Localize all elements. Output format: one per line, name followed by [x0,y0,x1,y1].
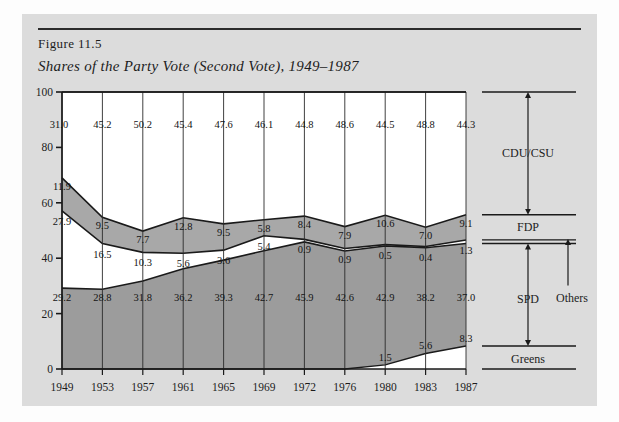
value-label-spd-1961: 36.2 [174,292,192,303]
xtick-label-1976: 1976 [333,381,356,393]
value-label-others-1980: 0.5 [379,250,392,261]
value-label-cdu-csu-1987: 44.3 [457,119,475,130]
value-label-spd-1953: 28.8 [93,292,111,303]
value-label-fdp-1949: 11.9 [53,181,71,192]
legend-label-cdu: CDU/CSU [502,146,554,160]
chart-area: 0204060801001949195319571961196519691972… [22,14,597,406]
value-label-spd-1969: 42.7 [255,292,273,303]
value-label-others-1957: 10.3 [134,257,152,268]
value-label-fdp-1972: 8.4 [298,219,312,230]
value-label-cdu-csu-1953: 45.2 [93,119,111,130]
figure-page: Figure 11.5 Shares of the Party Vote (Se… [0,0,619,422]
value-label-others-1972: 0.9 [298,244,311,255]
value-label-fdp-1980: 10.6 [376,218,394,229]
value-label-greens-1987: 8.3 [459,333,472,344]
legend-label-spd: SPD [517,292,539,306]
value-label-others-1987: 1.3 [459,245,472,256]
xtick-label-1983: 1983 [414,381,437,393]
value-label-cdu-csu-1949: 31.0 [50,119,68,130]
value-label-cdu-csu-1957: 50.2 [134,119,152,130]
legend-label-others: Others [556,291,588,305]
xtick-label-1957: 1957 [131,381,154,393]
xtick-label-1965: 1965 [212,381,235,393]
value-label-cdu-csu-1983: 48.8 [416,119,434,130]
ytick-label-80: 80 [42,141,54,153]
stacked-area-chart: 0204060801001949195319571961196519691972… [22,14,597,406]
value-label-spd-1957: 31.8 [134,292,152,303]
xtick-label-1987: 1987 [455,381,478,393]
value-label-fdp-1987: 9.1 [459,218,472,229]
value-label-cdu-csu-1976: 48.6 [336,119,354,130]
value-label-others-1965: 3.6 [217,255,230,266]
figure-panel: Figure 11.5 Shares of the Party Vote (Se… [22,14,597,406]
value-label-others-1961: 5.6 [177,258,190,269]
value-label-cdu-csu-1972: 44.8 [295,119,313,130]
legend-label-greens: Greens [511,352,545,366]
value-label-greens-1983: 5.6 [419,340,432,351]
value-label-fdp-1965: 9.5 [217,227,230,238]
value-label-spd-1965: 39.3 [214,292,232,303]
ytick-label-100: 100 [36,86,54,98]
value-label-spd-1980: 42.9 [376,292,394,303]
value-label-fdp-1957: 7.7 [136,234,149,245]
ytick-label-60: 60 [42,197,54,209]
value-label-others-1976: 0.9 [338,254,351,265]
xtick-label-1953: 1953 [91,381,114,393]
legend-label-fdp: FDP [517,220,539,234]
value-label-spd-1972: 45.9 [295,292,313,303]
value-label-greens-1980: 1.5 [379,352,392,363]
value-label-others-1983: 0.4 [419,252,433,263]
value-label-spd-1949: 29.2 [53,292,71,303]
value-label-fdp-1976: 7.9 [338,230,351,241]
value-label-cdu-csu-1969: 46.1 [255,119,273,130]
xtick-label-1961: 1961 [172,381,195,393]
value-label-others-1969: 5.4 [257,241,271,252]
value-label-cdu-csu-1980: 44.5 [376,119,394,130]
value-label-spd-1983: 38.2 [416,292,434,303]
xtick-label-1972: 1972 [293,381,316,393]
ytick-label-40: 40 [42,252,54,264]
value-label-fdp-1969: 5.8 [257,223,270,234]
value-label-others-1949: 27.9 [53,216,71,227]
xtick-label-1949: 1949 [51,381,74,393]
xtick-label-1980: 1980 [374,381,397,393]
value-label-cdu-csu-1965: 47.6 [214,119,232,130]
xtick-label-1969: 1969 [253,381,276,393]
value-label-fdp-1961: 12.8 [174,221,192,232]
value-label-fdp-1983: 7.0 [419,230,432,241]
ytick-label-20: 20 [42,308,54,320]
value-label-spd-1987: 37.0 [457,292,475,303]
ytick-label-0: 0 [47,363,53,375]
value-label-cdu-csu-1961: 45.4 [174,119,193,130]
value-label-fdp-1953: 9.5 [96,220,109,231]
value-label-others-1953: 16.5 [93,249,111,260]
value-label-spd-1976: 42.6 [336,292,354,303]
